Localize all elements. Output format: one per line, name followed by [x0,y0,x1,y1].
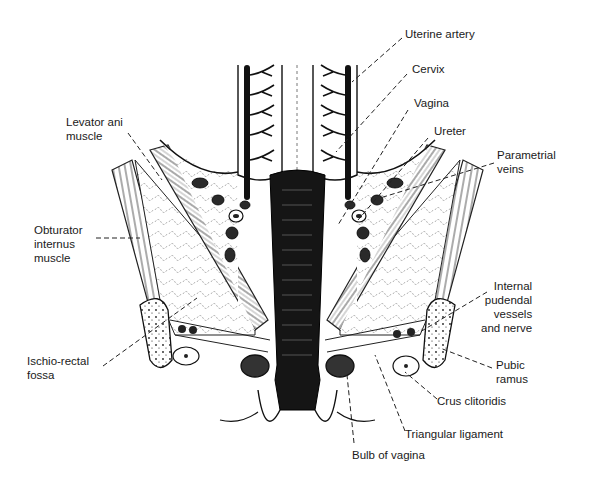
label-bulb-of-vagina: Bulb of vagina [352,448,425,462]
leader-crus-clitoridis [405,372,437,399]
pubic-ramus-right [423,299,455,368]
pelvic-section-drawing [0,0,595,494]
leader-uterine-artery [352,38,402,82]
label-levator-ani-muscle: Levator ani muscle [66,115,123,143]
pubic-ramus-left [140,299,172,368]
label-cervix: Cervix [412,62,445,76]
leader-pubic-ramus [440,348,492,368]
label-parametrial-veins: Parametrial veins [497,148,556,176]
uterine-artery-left [244,65,250,200]
label-uterine-artery: Uterine artery [405,27,475,41]
anatomy-figure: Uterine arteryCervixVaginaUreterParametr… [0,0,595,494]
bulb-of-vagina-left [241,355,269,377]
label-triangular-ligament: Triangular ligament [405,427,503,441]
label-obturator-internus-muscle: Obturator internus muscle [34,223,83,265]
label-vagina: Vagina [414,96,449,110]
label-pubic-ramus: Pubic ramus [496,358,528,386]
bulb-of-vagina-right [326,355,354,377]
label-ischio-rectal-fossa: Ischio-rectal fossa [27,354,89,382]
vagina [270,170,325,410]
label-ureter: Ureter [434,124,466,138]
label-crus-clitoridis: Crus clitoridis [437,394,506,408]
uterine-artery-right [345,65,351,200]
label-internal-pudendal-vessels-and-nerve: Internal pudendal vessels and nerve [481,279,532,335]
leader-bulb-of-vagina [347,375,354,443]
